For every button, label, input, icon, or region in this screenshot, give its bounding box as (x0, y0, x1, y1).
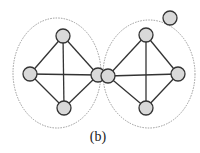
node-L-left (23, 67, 37, 81)
node-R-left (101, 69, 115, 83)
figure-caption: (b) (0, 129, 196, 145)
node-L-bottom (57, 101, 71, 115)
node-isolated (163, 11, 177, 25)
edge-R-left-R-right (108, 74, 178, 76)
edge-R-left-R-top (108, 35, 146, 76)
node-R-bottom (139, 101, 153, 115)
node-R-top (139, 28, 153, 42)
edge-L-top-L-bottom (63, 36, 64, 108)
node-R-right (171, 67, 185, 81)
node-L-top (56, 29, 70, 43)
